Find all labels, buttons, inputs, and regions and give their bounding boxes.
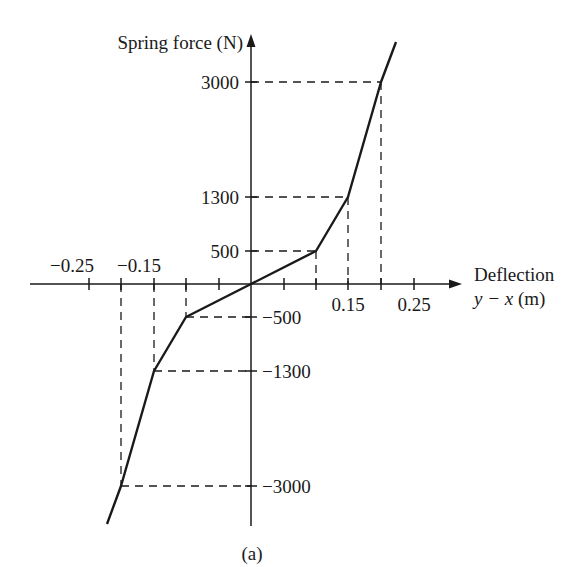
y-axis-arrow-icon <box>247 34 256 47</box>
x-tick-label-015: 0.15 <box>331 294 364 315</box>
y-tick-label-1300: 1300 <box>201 187 239 208</box>
y-tick-label-neg1300: −1300 <box>262 361 311 382</box>
x-tick-label-neg025: −0.25 <box>50 255 94 276</box>
x-axis-label-line2: y − x (m) <box>472 288 545 310</box>
figure-caption: (a) <box>241 543 262 565</box>
y-tick-label-3000: 3000 <box>201 72 239 93</box>
axes <box>30 40 457 526</box>
x-axis-arrow-icon <box>449 280 462 289</box>
y-tick-label-500: 500 <box>211 241 240 262</box>
x-axis-variable: y − x <box>472 288 514 309</box>
y-axis-label: Spring force (N) <box>117 32 243 54</box>
y-tick-label-neg500: −500 <box>262 307 301 328</box>
spring-force-chart: Spring force (N) Deflection y − x (m) −0… <box>0 0 588 567</box>
x-axis-unit: (m) <box>513 288 545 310</box>
y-tick-label-neg3000: −3000 <box>262 476 311 497</box>
x-tick-label-neg015: −0.15 <box>117 255 161 276</box>
x-axis-label-line1: Deflection <box>474 264 555 285</box>
x-tick-label-025: 0.25 <box>397 294 430 315</box>
